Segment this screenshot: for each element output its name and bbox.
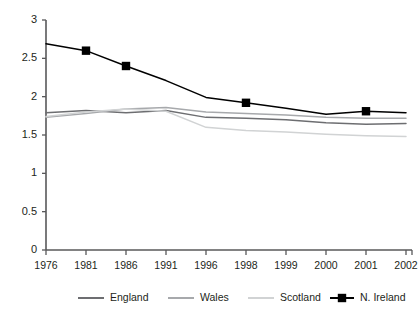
series-line-n-ireland (46, 44, 406, 115)
x-axis-tick-label: 2002 (394, 259, 418, 271)
x-axis-tick-label: 1996 (194, 259, 218, 271)
y-axis-tick-label: 0 (31, 243, 37, 255)
data-point-marker (362, 107, 370, 115)
y-axis: 00.511.522.53 (22, 13, 46, 255)
x-axis-tick-label: 2000 (314, 259, 338, 271)
y-axis-tick-label: 1 (31, 166, 37, 178)
legend-item-scotland[interactable]: Scotland (248, 291, 321, 303)
x-axis-tick-label: 1991 (154, 259, 178, 271)
y-axis-tick-label: 0.5 (22, 205, 37, 217)
x-axis-tick-label: 1981 (74, 259, 98, 271)
y-axis-tick-label: 2.5 (22, 51, 37, 63)
data-point-marker (242, 99, 250, 107)
chart-legend: EnglandWalesScotlandN. Ireland (78, 291, 406, 303)
legend-label: England (110, 291, 149, 303)
data-point-marker (122, 62, 130, 70)
legend-label: N. Ireland (360, 291, 406, 303)
legend-item-n-ireland[interactable]: N. Ireland (330, 291, 406, 303)
y-axis-tick-label: 1.5 (22, 128, 37, 140)
legend-item-wales[interactable]: Wales (168, 291, 229, 303)
y-axis-tick-label: 2 (31, 90, 37, 102)
legend-label: Wales (200, 291, 229, 303)
chart-container: 00.511.522.53 19761981198619911996199819… (0, 0, 418, 328)
x-axis-tick-label: 1999 (274, 259, 298, 271)
x-axis-tick-label: 1998 (234, 259, 258, 271)
legend-item-england[interactable]: England (78, 291, 149, 303)
line-chart: 00.511.522.53 19761981198619911996199819… (0, 0, 418, 328)
series-lines (46, 44, 406, 137)
y-axis-tick-label: 3 (31, 13, 37, 25)
x-axis: 1976198119861991199619981999200020012002 (34, 250, 418, 271)
data-point-marker (82, 46, 90, 54)
legend-marker (338, 294, 346, 302)
x-axis-tick-label: 1986 (114, 259, 138, 271)
x-axis-tick-label: 1976 (34, 259, 58, 271)
x-axis-tick-label: 2001 (354, 259, 378, 271)
legend-label: Scotland (280, 291, 321, 303)
